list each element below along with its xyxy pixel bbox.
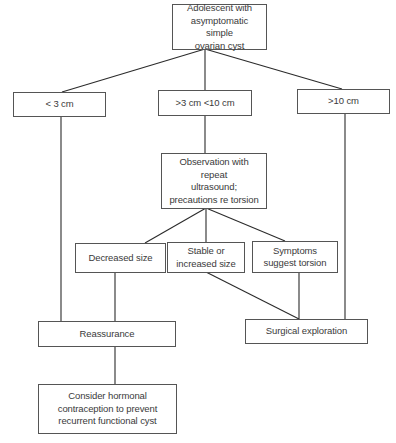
ovarian-cyst-management-flowchart: Adolescent with asymptomatic simple ovar… bbox=[0, 0, 396, 443]
connector-lines bbox=[0, 0, 396, 443]
edge-root-gt10 bbox=[205, 49, 342, 89]
node-symptoms-torsion: Symptoms suggest torsion bbox=[252, 241, 338, 273]
node-stable-or-increased: Stable or increased size bbox=[167, 242, 245, 273]
node-size-3-to-10: >3 cm <10 cm bbox=[158, 90, 252, 116]
edge-observation-decreased bbox=[145, 208, 206, 243]
node-size-lt3: < 3 cm bbox=[13, 92, 106, 117]
node-size-gt10: >10 cm bbox=[297, 89, 390, 114]
node-reassurance: Reassurance bbox=[38, 321, 176, 347]
edge-stable-surgical bbox=[206, 272, 299, 319]
node-decreased-size: Decreased size bbox=[75, 243, 166, 273]
node-surgical-exploration: Surgical exploration bbox=[245, 319, 368, 344]
edge-observation-symptoms bbox=[206, 208, 285, 241]
node-hormonal-contraception: Consider hormonal contraception to preve… bbox=[38, 384, 177, 434]
edge-root-lt3 bbox=[62, 49, 205, 92]
node-observation: Observation with repeat ultrasound; prec… bbox=[161, 153, 267, 209]
node-root: Adolescent with asymptomatic simple ovar… bbox=[172, 4, 267, 50]
